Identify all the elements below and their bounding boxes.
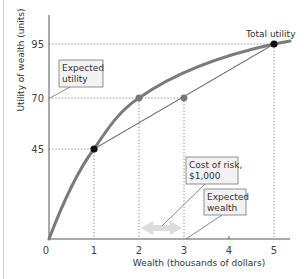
svg-text:Expected: Expected [207,192,249,202]
x-tick-5: 5 [271,245,277,256]
total-utility-label: Total utility [245,29,296,39]
expected-utility-annotation: Expected utility [59,60,104,87]
x-tick-3: 3 [181,245,187,256]
svg-text:Cost of risk,: Cost of risk, [189,160,242,170]
x-tick-1: 1 [91,245,97,256]
point-w5-u95 [270,40,277,47]
utility-chart: Expected utility Cost of risk, $1,000 Ex… [0,0,304,279]
cost-of-risk-arrow [141,221,182,235]
x-tick-2: 2 [136,245,142,256]
svg-text:wealth: wealth [207,203,237,213]
y-tick-45: 45 [31,144,44,155]
x-tick-4-label: 4 [226,245,232,256]
x-axis-title: Wealth (thousands of dollars) [133,258,265,268]
point-w3-u70 [181,95,188,102]
svg-text:$1,000: $1,000 [189,171,221,181]
svg-text:Expected: Expected [62,63,104,73]
y-tick-95: 95 [31,39,44,50]
y-axis-title: Utility of wealth (units) [16,8,26,111]
expected-wealth-annotation: Expected wealth [204,189,249,215]
point-w1-u45 [90,145,97,152]
x-tick-0: 0 [43,245,49,256]
y-tick-70: 70 [31,93,44,104]
cost-of-risk-annotation: Cost of risk, $1,000 [186,157,242,184]
point-w2-u70 [136,95,143,102]
svg-text:utility: utility [62,74,88,84]
